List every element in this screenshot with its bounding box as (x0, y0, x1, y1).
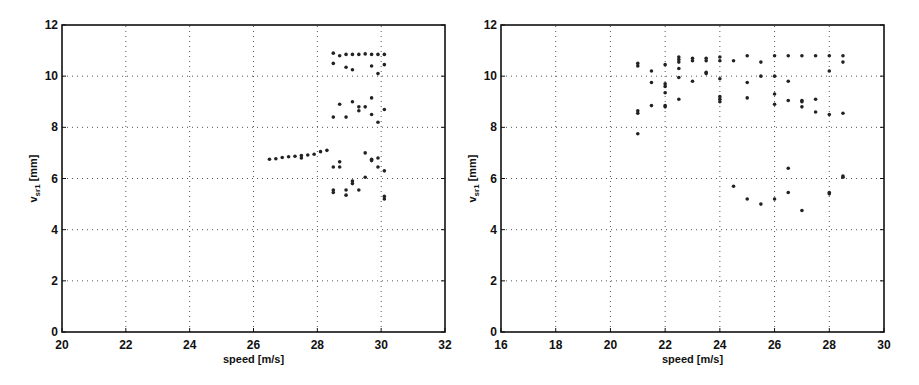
data-point (370, 96, 374, 100)
x-axis-label: speed [m/s] (223, 353, 284, 365)
data-point (759, 202, 763, 206)
data-point (718, 77, 722, 81)
data-point (786, 166, 790, 170)
data-point (677, 67, 681, 71)
data-point (745, 96, 749, 100)
data-point (745, 81, 749, 85)
data-point (331, 51, 335, 55)
x-tick-label: 22 (658, 338, 672, 352)
data-point (370, 159, 374, 163)
data-point (344, 53, 348, 57)
data-point (773, 92, 777, 96)
data-point (718, 100, 722, 104)
data-point (718, 59, 722, 63)
figure: 20222426283032024681012speed [m/s]vsr1 [… (0, 0, 919, 385)
data-point (376, 53, 380, 57)
y-tick-label: 4 (490, 223, 497, 237)
data-point (383, 53, 387, 57)
data-point (383, 169, 387, 173)
x-axis-label: speed [m/s] (662, 353, 723, 365)
plot-right: 1618202224262830024681012speed [m/s]vsr1… (466, 18, 891, 365)
data-point (677, 97, 681, 101)
data-point (773, 103, 777, 107)
data-point (841, 111, 845, 115)
y-tick-label: 10 (484, 69, 498, 83)
data-point (827, 69, 831, 73)
data-point (338, 165, 342, 169)
y-axis-label: vsr1 [mm] (27, 154, 42, 202)
data-point (351, 68, 355, 72)
data-point (344, 193, 348, 197)
x-tick-label: 28 (823, 338, 837, 352)
data-point (773, 54, 777, 58)
data-point (663, 105, 667, 109)
data-point (827, 113, 831, 117)
data-point (331, 191, 335, 195)
x-tick-label: 24 (183, 338, 197, 352)
data-point (331, 62, 335, 66)
x-tick-label: 20 (604, 338, 618, 352)
data-point (814, 110, 818, 114)
data-point (376, 156, 380, 160)
data-point (363, 52, 367, 56)
y-tick-label: 0 (490, 325, 497, 339)
data-point (383, 63, 387, 67)
data-point (268, 158, 272, 162)
data-point (280, 156, 284, 160)
data-point (786, 99, 790, 103)
data-point (759, 74, 763, 78)
data-point (650, 104, 654, 108)
data-point (319, 150, 323, 154)
data-point (331, 115, 335, 119)
data-point (800, 105, 804, 109)
data-point (357, 105, 361, 109)
data-point (841, 60, 845, 64)
y-tick-label: 12 (45, 18, 59, 32)
y-axis-label: vsr1 [mm] (466, 154, 481, 202)
data-point (773, 197, 777, 201)
data-point (287, 155, 291, 159)
data-point (300, 156, 304, 160)
y-label-subscript: sr1 (472, 184, 481, 197)
y-tick-label: 8 (51, 120, 58, 134)
plot-left: 20222426283032024681012speed [m/s]vsr1 [… (27, 18, 452, 365)
y-label-unit: [mm] (466, 154, 478, 184)
y-label-subscript: sr1 (33, 184, 42, 197)
x-tick-label: 22 (119, 338, 133, 352)
y-tick-label: 4 (51, 223, 58, 237)
y-tick-label: 12 (484, 18, 498, 32)
data-point (663, 91, 667, 95)
data-point (383, 108, 387, 112)
data-point (786, 54, 790, 58)
data-point (732, 184, 736, 188)
y-tick-label: 8 (490, 120, 497, 134)
data-point (338, 103, 342, 107)
data-point (636, 64, 640, 68)
x-tick-label: 20 (55, 338, 69, 352)
data-point (383, 197, 387, 201)
y-label-unit: [mm] (27, 154, 39, 184)
x-tick-label: 30 (877, 338, 891, 352)
data-point (732, 59, 736, 63)
data-point (344, 188, 348, 192)
y-tick-label: 2 (51, 274, 58, 288)
data-point (376, 165, 380, 169)
data-point (293, 154, 297, 158)
y-tick-label: 2 (490, 274, 497, 288)
data-point (800, 100, 804, 104)
data-point (650, 69, 654, 73)
data-point (718, 55, 722, 59)
data-point (814, 54, 818, 58)
x-tick-label: 30 (374, 338, 388, 352)
data-point (363, 105, 367, 109)
data-point (306, 153, 310, 157)
x-tick-label: 32 (438, 338, 452, 352)
data-point (331, 165, 335, 169)
data-point (759, 60, 763, 64)
x-tick-label: 16 (494, 338, 508, 352)
data-point (274, 157, 278, 161)
data-point (814, 97, 818, 101)
data-point (786, 191, 790, 195)
data-point (745, 197, 749, 201)
data-point (663, 63, 667, 67)
